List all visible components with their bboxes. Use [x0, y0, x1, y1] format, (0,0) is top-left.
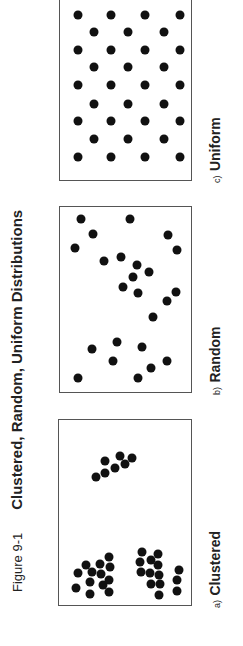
data-point: [154, 550, 163, 559]
caption-uniform: c) Uniform: [206, 117, 224, 183]
data-point: [86, 590, 95, 599]
data-point: [160, 100, 169, 109]
data-point: [160, 135, 169, 144]
panel-random: [59, 206, 192, 393]
data-point: [176, 153, 185, 162]
data-point: [96, 560, 105, 569]
data-point: [117, 253, 126, 262]
data-point: [74, 569, 83, 578]
data-point: [101, 457, 110, 466]
data-point: [74, 374, 83, 383]
data-point: [160, 28, 169, 37]
data-point: [145, 268, 154, 277]
data-point: [129, 273, 138, 282]
panel-clustered: [58, 419, 192, 606]
data-point: [155, 571, 164, 580]
caption-name: Random: [207, 327, 223, 383]
data-point: [124, 135, 133, 144]
figure-title: Clustered, Random, Uniform Distributions: [8, 210, 25, 510]
figure-label: Figure 9-1: [10, 533, 25, 592]
data-point: [147, 580, 156, 589]
data-point: [90, 63, 99, 72]
data-point: [173, 246, 182, 255]
data-point: [141, 153, 150, 162]
data-point: [77, 215, 86, 224]
data-point: [173, 576, 182, 585]
data-point: [92, 473, 101, 482]
data-point: [107, 81, 116, 90]
data-point: [164, 231, 173, 240]
data-point: [128, 454, 137, 463]
data-point: [126, 215, 135, 224]
caption-random: b) Random: [206, 327, 224, 395]
data-point: [134, 374, 143, 383]
data-point: [106, 563, 115, 572]
data-point: [133, 261, 142, 270]
data-point: [111, 464, 120, 473]
caption-name: Clustered: [207, 531, 223, 596]
data-point: [156, 580, 165, 589]
data-point: [141, 11, 150, 20]
data-point: [74, 11, 83, 20]
data-point: [176, 11, 185, 20]
data-point: [88, 345, 97, 354]
data-point: [113, 338, 122, 347]
data-point: [105, 576, 114, 585]
data-point: [88, 568, 97, 577]
data-point: [105, 553, 114, 562]
data-point: [172, 288, 181, 297]
data-point: [147, 364, 156, 373]
data-point: [72, 584, 81, 593]
data-point: [136, 558, 145, 567]
data-point: [137, 568, 146, 577]
data-point: [160, 63, 169, 72]
figure-canvas: Figure 9-1 Clustered, Random, Uniform Di…: [0, 0, 243, 646]
data-point: [107, 11, 116, 20]
caption-prefix: c): [212, 176, 222, 184]
data-point: [89, 230, 98, 239]
data-point: [90, 28, 99, 37]
data-point: [146, 569, 155, 578]
figure-heading: Figure 9-1 Clustered, Random, Uniform Di…: [8, 210, 26, 592]
data-point: [141, 81, 150, 90]
data-point: [74, 46, 83, 55]
data-point: [107, 153, 116, 162]
data-point: [90, 100, 99, 109]
data-point: [71, 244, 80, 253]
data-point: [119, 283, 128, 292]
data-point: [163, 297, 172, 306]
data-point: [124, 28, 133, 37]
data-point: [90, 135, 99, 144]
data-point: [105, 588, 114, 597]
data-point: [86, 578, 95, 587]
data-point: [141, 117, 150, 126]
data-point: [176, 81, 185, 90]
data-point: [173, 587, 182, 596]
data-point: [141, 46, 150, 55]
data-point: [100, 257, 109, 266]
data-point: [124, 100, 133, 109]
data-point: [155, 591, 164, 600]
data-point: [74, 117, 83, 126]
data-point: [176, 46, 185, 55]
panel-uniform: [59, 0, 192, 181]
data-point: [74, 153, 83, 162]
data-point: [74, 81, 83, 90]
data-point: [138, 548, 147, 557]
data-point: [163, 357, 172, 366]
data-point: [107, 46, 116, 55]
caption-clustered: a) Clustered: [206, 531, 224, 608]
caption-name: Uniform: [207, 117, 223, 171]
data-point: [175, 566, 184, 575]
data-point: [149, 313, 158, 322]
data-point: [176, 117, 185, 126]
data-point: [109, 357, 118, 366]
data-point: [107, 117, 116, 126]
data-point: [101, 469, 110, 478]
data-point: [138, 343, 147, 352]
caption-prefix: a): [212, 600, 222, 608]
caption-prefix: b): [212, 387, 222, 395]
data-point: [124, 63, 133, 72]
data-point: [134, 289, 143, 298]
data-point: [154, 561, 163, 570]
